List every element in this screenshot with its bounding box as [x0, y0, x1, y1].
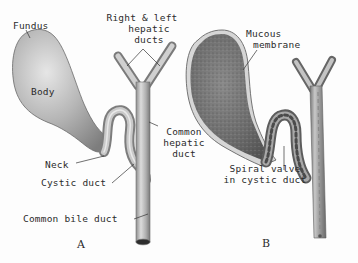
label-right-left-hepatic-ducts: Right & left hepatic ducts: [100, 12, 184, 45]
label-mucous-line1: Mucous: [246, 28, 300, 39]
label-common-hepatic-line1: Common: [160, 126, 208, 137]
label-hepatic-ducts-line3: ducts: [100, 34, 184, 45]
label-fundus: Fundus: [13, 20, 49, 31]
label-spiral-valve: Spiral valve in cystic duct: [215, 163, 315, 185]
label-spiral-line2: in cystic duct: [215, 174, 315, 185]
panel-a-gallbladder: [13, 29, 146, 180]
label-spiral-line1: Spiral valve: [215, 163, 315, 174]
label-common-hepatic-duct: Common hepatic duct: [160, 126, 208, 159]
label-body: Body: [31, 86, 55, 97]
label-cystic-duct: Cystic duct: [41, 177, 106, 188]
label-hepatic-ducts-line1: Right & left: [100, 12, 184, 23]
label-neck: Neck: [45, 159, 69, 170]
panel-letter-b: B: [262, 237, 270, 250]
label-mucous-membrane: Mucous membrane: [246, 28, 300, 50]
label-common-hepatic-line2: hepatic: [160, 137, 208, 148]
gallbladder-anatomy-figure: Fundus Body Neck Cystic duct Common bile…: [0, 0, 358, 263]
label-common-hepatic-line3: duct: [160, 148, 208, 159]
panel-letter-a: A: [77, 238, 85, 251]
label-hepatic-ducts-line2: hepatic: [100, 23, 184, 34]
label-common-bile-duct: Common bile duct: [23, 213, 118, 224]
label-mucous-line2: membrane: [246, 39, 300, 50]
